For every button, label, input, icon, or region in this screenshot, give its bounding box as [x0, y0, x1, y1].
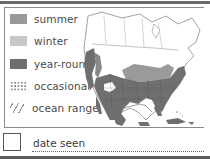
top-border — [0, 1, 210, 4]
range-map — [82, 8, 206, 128]
year-round-swatch-icon — [10, 59, 27, 69]
summer-swatch-icon — [10, 14, 27, 24]
legend-item-year-round: year-round — [10, 57, 92, 71]
date-seen-field[interactable] — [32, 151, 204, 152]
seen-checkbox[interactable] — [3, 133, 21, 151]
winter-swatch-icon — [10, 36, 27, 46]
date-seen-label: date seen — [33, 137, 85, 149]
legend-item-winter: winter — [10, 34, 68, 48]
legend-label: summer — [34, 13, 78, 25]
legend-item-summer: summer — [10, 12, 78, 26]
north-america-map-icon — [82, 8, 206, 128]
hatched-pattern-icon — [10, 103, 24, 113]
bottom-border — [0, 156, 210, 159]
dotted-pattern-icon — [10, 81, 27, 91]
legend-item-occasional: occasional — [10, 79, 90, 93]
legend-label: winter — [34, 35, 68, 47]
